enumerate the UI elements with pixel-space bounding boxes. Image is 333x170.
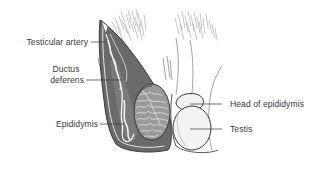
label-ductus-deferens-line2: deferens: [36, 75, 84, 85]
label-ductus-deferens-line1: Ductus: [46, 64, 86, 74]
testis-shape: [173, 106, 211, 150]
pubic-hair-strokes: [112, 9, 217, 40]
intact-testis: [171, 93, 218, 152]
label-head-of-epididymis: Head of epididymis: [230, 99, 304, 109]
label-epididymis: Epididymis: [40, 119, 98, 129]
label-testicular-artery: Testicular artery: [6, 37, 88, 47]
cross-section: [99, 20, 171, 152]
testis-anatomy-diagram: [0, 0, 333, 170]
label-testis: Testis: [230, 124, 252, 134]
